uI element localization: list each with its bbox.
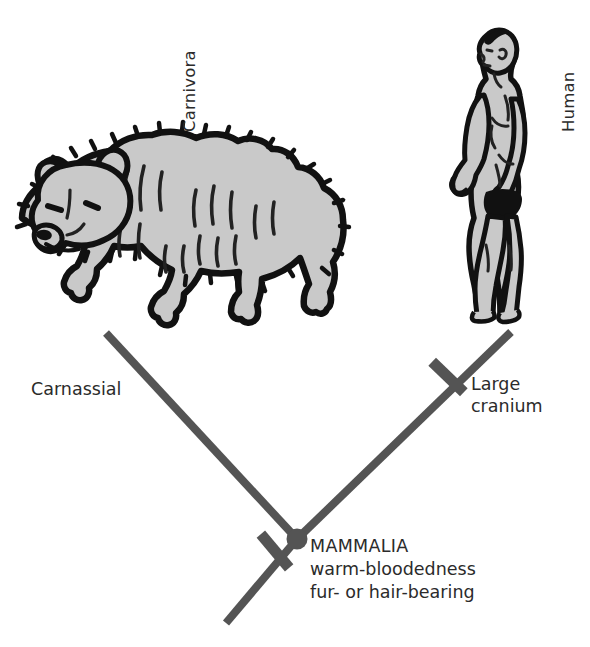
taxon-label-human: Human	[559, 71, 578, 132]
clade-trait-2: fur- or hair-bearing	[310, 581, 476, 604]
cladogram-figure: Carnivora Human Carnassial Large cranium…	[0, 0, 590, 647]
character-label-large-cranium: Large cranium	[471, 373, 543, 418]
character-label-carnassial: Carnassial	[31, 379, 121, 400]
clade-trait-1: warm-bloodedness	[310, 558, 476, 581]
human-eye	[487, 50, 492, 51]
taxon-label-carnivora: Carnivora	[180, 50, 199, 132]
character-label-large-cranium-line1: Large	[471, 374, 520, 394]
human-illustration	[0, 0, 590, 647]
clade-name: MAMMALIA	[310, 535, 476, 558]
human-foot-near	[472, 311, 495, 321]
character-label-large-cranium-line2: cranium	[471, 396, 543, 416]
clade-label: MAMMALIA warm-bloodedness fur- or hair-b…	[310, 535, 476, 603]
